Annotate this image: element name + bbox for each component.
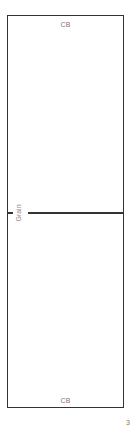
grainline-left-segment — [7, 212, 13, 214]
page-number: 3 — [126, 419, 130, 426]
bottom-edge-label: CB — [8, 397, 123, 404]
pattern-piece-outline: CB Grain CB — [7, 15, 124, 408]
top-edge-label: CB — [8, 21, 123, 28]
grainline — [28, 212, 124, 214]
grainline-label: Grain — [14, 202, 24, 224]
